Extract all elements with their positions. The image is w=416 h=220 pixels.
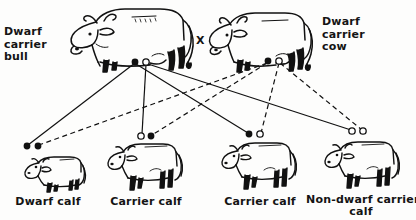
- calf4-allele-right: [360, 128, 366, 134]
- calf1-allele-left: [24, 143, 31, 150]
- calf3-allele-right: [257, 131, 263, 137]
- cow-gamete-dwarf-allele: [265, 58, 272, 65]
- line-bull-open-to-calf2: [142, 64, 146, 134]
- cow-gamete-normal-allele: [276, 58, 282, 64]
- genetics-cross-figure: Dwarf carrier bull Dwarf carrier cow X D…: [0, 0, 416, 220]
- parent-label-bull: Dwarf carrier bull: [4, 26, 47, 64]
- adult-cow-illustration: [209, 13, 312, 72]
- dwarf-calf-illustration: [25, 157, 85, 192]
- offspring-genotype-markers: [24, 128, 367, 150]
- calf2-allele-left: [138, 133, 144, 139]
- line-cow-filled-to-calf2: [152, 63, 267, 135]
- line-bull-filled-to-calf1: [28, 63, 135, 145]
- line-bull-filled-to-calf3: [136, 64, 248, 133]
- line-cow-filled-to-calf1: [39, 63, 267, 145]
- offspring-label-dwarf-calf: Dwarf calf: [0, 196, 96, 208]
- cross-symbol: X: [196, 35, 205, 47]
- parent-label-cow: Dwarf carrier cow: [322, 16, 365, 54]
- calf4-allele-left: [349, 128, 355, 134]
- calf1-allele-right: [35, 143, 42, 150]
- bull-gamete-dwarf-allele: [132, 59, 139, 66]
- carrier-calf-1-illustration: [108, 144, 182, 190]
- offspring-label-carrier-calf-1: Carrier calf: [94, 196, 198, 208]
- non-dwarf-carrier-calf-illustration: [325, 142, 399, 188]
- offspring-label-non-dwarf-carrier-calf: Non-dwarf carrier calf: [306, 194, 416, 218]
- carrier-calf-2-illustration: [222, 143, 296, 189]
- bull-gamete-normal-allele: [143, 59, 149, 65]
- line-cow-open-to-calf3: [261, 63, 279, 133]
- inheritance-lines-maternal: [39, 63, 362, 145]
- offspring-label-carrier-calf-2: Carrier calf: [208, 196, 312, 208]
- calf2-allele-right: [148, 133, 155, 140]
- calf3-allele-left: [246, 131, 253, 138]
- inheritance-lines-paternal: [28, 63, 351, 145]
